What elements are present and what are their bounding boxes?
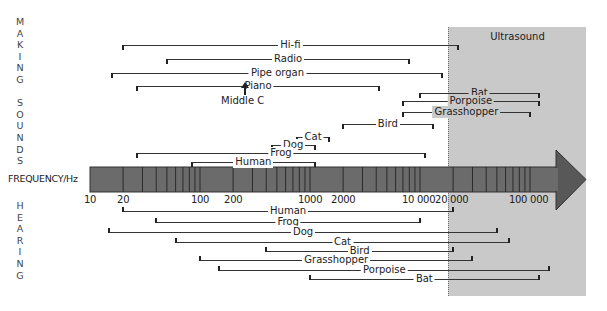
range-end-marker (111, 73, 113, 78)
tick-label: 20 000 (435, 194, 468, 205)
range-end-marker (155, 218, 157, 223)
range-end-marker (342, 124, 344, 129)
hearing-range-porpoise: Porpoise (219, 270, 549, 271)
range-label: Dog (291, 226, 315, 238)
range-end-marker (136, 86, 138, 91)
range-end-marker (419, 93, 421, 98)
making_sounds-range-dog: Dog (272, 145, 315, 146)
making_sounds-range-grasshopper: Grasshopper (403, 112, 530, 113)
hearing-range-bird: Bird (266, 251, 453, 252)
range-end-marker (471, 256, 473, 261)
range-end-marker (191, 162, 193, 167)
range-end-marker (538, 275, 540, 280)
making_sounds-range-bat: Bat (420, 93, 539, 94)
range-end-marker (328, 137, 330, 142)
range-end-marker (529, 112, 531, 117)
range-label: Pipe organ (249, 67, 306, 79)
hearing-range-frog: Frog (156, 222, 420, 223)
making_sounds-range-piano: Piano (137, 86, 378, 87)
middle-c-arrow-icon (240, 82, 250, 96)
making_sounds-range-frog: Frog (137, 153, 424, 154)
making_sounds-range-hi-fi: Hi-fi (123, 45, 458, 46)
range-end-marker (378, 86, 380, 91)
range-end-marker (108, 228, 110, 233)
range-end-marker (402, 112, 404, 117)
range-end-marker (424, 153, 426, 158)
range-end-marker (452, 247, 454, 252)
making_sounds-range-porpoise: Porpoise (403, 101, 539, 102)
making_sounds-range-radio: Radio (167, 59, 409, 60)
range-end-marker (199, 256, 201, 261)
range-end-marker (218, 266, 220, 271)
making_sounds-range-human: Human (192, 162, 314, 163)
range-end-marker (548, 266, 550, 271)
range-label: Hi-fi (278, 39, 302, 51)
hearing-range-bat: Bat (310, 279, 539, 280)
range-end-marker (175, 238, 177, 243)
range-label: Bird (376, 118, 400, 130)
range-end-marker (432, 124, 434, 129)
tick-label: 1000 (298, 194, 322, 205)
range-end-marker (166, 59, 168, 64)
range-label: Grasshopper (433, 106, 501, 118)
tick-label: 10 (84, 194, 96, 205)
range-end-marker (508, 238, 510, 243)
tick-label: 2000 (331, 194, 355, 205)
range-end-marker (122, 207, 124, 212)
range-label: Grasshopper (302, 254, 370, 266)
middle-c-label: Middle C (221, 95, 264, 106)
range-end-marker (452, 207, 454, 212)
hearing-range-human: Human (123, 211, 453, 212)
range-label: Bat (414, 273, 435, 285)
range-label: Human (233, 156, 273, 168)
tick-label: 20 (117, 194, 129, 205)
range-label: Porpoise (361, 264, 408, 276)
range-end-marker (538, 101, 540, 106)
hearing-range-grasshopper: Grasshopper (200, 260, 472, 261)
range-end-marker (314, 162, 316, 167)
tick-label: 100 (191, 194, 209, 205)
tick-label: 200 (224, 194, 242, 205)
tick-label: 10 000 (402, 194, 435, 205)
range-end-marker (265, 247, 267, 252)
making_sounds-range-bird: Bird (343, 124, 432, 125)
tick-label: 100 000 (509, 194, 548, 205)
hearing-range-dog: Dog (109, 232, 497, 233)
range-end-marker (314, 145, 316, 150)
range-end-marker (441, 73, 443, 78)
range-end-marker (419, 218, 421, 223)
range-end-marker (122, 45, 124, 50)
range-label: Radio (272, 53, 304, 65)
making_sounds-range-cat: Cat (297, 137, 329, 138)
range-end-marker (402, 101, 404, 106)
range-end-marker (136, 153, 138, 158)
range-end-marker (496, 228, 498, 233)
range-label: Cat (303, 131, 324, 143)
range-end-marker (408, 59, 410, 64)
making_sounds-range-pipe-organ: Pipe organ (112, 73, 442, 74)
hearing-range-cat: Cat (176, 242, 510, 243)
range-end-marker (538, 93, 540, 98)
range-end-marker (309, 275, 311, 280)
range-end-marker (457, 45, 459, 50)
